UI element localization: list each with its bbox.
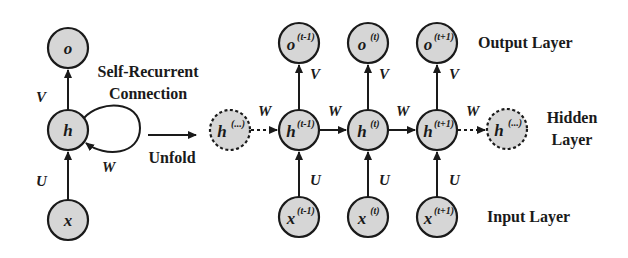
weight-V-label: V xyxy=(36,89,48,105)
input-layer-label: Input Layer xyxy=(487,208,570,226)
rnn-unfold-diagram: o h x V U W Self-Recurrent Connection Un… xyxy=(0,0,628,258)
weight-V-t-1: V xyxy=(310,66,322,82)
node-x-label: x xyxy=(63,211,73,230)
weight-U-label: U xyxy=(36,173,48,189)
hidden-layer-label-line1: Hidden xyxy=(547,109,598,126)
node-x-t-1-base: x xyxy=(286,209,296,228)
node-h-t-1-base: h xyxy=(286,122,295,141)
node-x-t+1-sup: (t+1) xyxy=(434,205,454,217)
hidden-layer-label-line2: Layer xyxy=(552,131,593,149)
node-x: x xyxy=(48,200,88,240)
weight-U-t-1: U xyxy=(310,172,322,188)
unfolded-rnn: h (...) h (...) o (t-1) h (t-1) x (t-1) xyxy=(210,23,527,237)
node-x-t-base: x xyxy=(357,209,367,228)
node-x-t-1-sup: (t-1) xyxy=(297,205,315,217)
node-h-next-sup: (...) xyxy=(508,117,522,129)
node-h-t: h (t) xyxy=(348,110,388,150)
node-h-prev-base: h xyxy=(217,122,226,141)
node-o-t+1-base: o xyxy=(424,35,433,54)
weight-W-into-t-1: W xyxy=(258,103,273,119)
weight-V-t: V xyxy=(379,66,391,82)
node-h-next: h (...) xyxy=(487,109,527,149)
node-o: o xyxy=(48,28,88,68)
node-x-t: x (t) xyxy=(348,197,388,237)
node-h-t+1: h (t+1) xyxy=(417,110,457,150)
self-recurrent-loop xyxy=(84,106,140,152)
self-recurrent-label-line2: Connection xyxy=(109,85,187,102)
weight-U-t: U xyxy=(379,172,391,188)
node-x-t+1: x (t+1) xyxy=(417,197,457,237)
node-h-label: h xyxy=(63,121,72,140)
node-h-t-1: h (t-1) xyxy=(279,110,319,150)
node-o-label: o xyxy=(64,39,73,58)
node-o-t+1-sup: (t+1) xyxy=(434,31,454,43)
node-o-t+1: o (t+1) xyxy=(417,23,457,63)
node-h-t+1-base: h xyxy=(423,122,432,141)
unfold-label: Unfold xyxy=(148,149,195,166)
weight-W-out: W xyxy=(466,103,481,119)
node-h-t-base: h xyxy=(357,122,366,141)
step-t-1: o (t-1) h (t-1) x (t-1) V U W xyxy=(258,23,322,237)
node-h-prev: h (...) xyxy=(210,110,250,150)
node-o-t-sup: (t) xyxy=(370,31,379,43)
unfold-arrow: Unfold xyxy=(148,135,196,166)
weight-W-into-t+1: W xyxy=(396,103,411,119)
node-o-t: o (t) xyxy=(348,23,388,63)
node-x-t-1: x (t-1) xyxy=(279,197,319,237)
node-h-prev-sup: (...) xyxy=(231,118,245,130)
node-h-t+1-sup: (t+1) xyxy=(434,118,454,130)
node-h-next-base: h xyxy=(494,121,503,140)
node-o-t-1-base: o xyxy=(287,35,296,54)
output-layer-label: Output Layer xyxy=(478,34,573,52)
node-h-t-sup: (t) xyxy=(370,118,379,130)
node-x-t+1-base: x xyxy=(423,209,433,228)
node-o-t-1: o (t-1) xyxy=(279,23,319,63)
node-h-t-1-sup: (t-1) xyxy=(297,118,315,130)
weight-W-label: W xyxy=(102,159,117,175)
weight-W-into-t: W xyxy=(328,103,343,119)
node-o-t-base: o xyxy=(358,35,367,54)
node-h: h xyxy=(48,110,88,150)
weight-U-t+1: U xyxy=(449,172,461,188)
self-recurrent-label-line1: Self-Recurrent xyxy=(98,63,200,80)
node-o-t-1-sup: (t-1) xyxy=(297,31,315,43)
node-x-t-sup: (t) xyxy=(370,205,379,217)
weight-V-t+1: V xyxy=(449,66,461,82)
